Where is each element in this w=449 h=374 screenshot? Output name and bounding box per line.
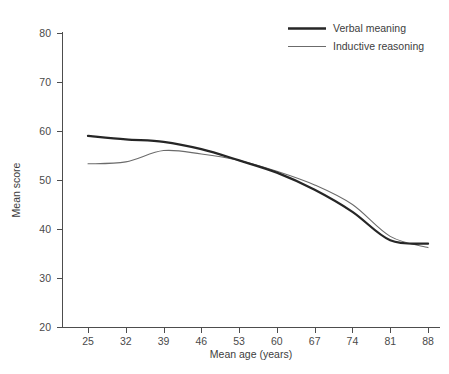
x-tick-group: 25323946536067748188: [82, 328, 434, 348]
x-tick-label: 32: [120, 335, 132, 347]
y-tick-label: 20: [39, 321, 51, 333]
legend-label-verbal-meaning: Verbal meaning: [333, 22, 406, 34]
x-tick-label: 67: [309, 335, 321, 347]
legend-label-inductive-reasoning: Inductive reasoning: [333, 40, 424, 52]
x-tick-label: 46: [195, 335, 207, 347]
legend: Verbal meaning Inductive reasoning: [288, 22, 424, 52]
x-tick-label: 53: [233, 335, 245, 347]
chart-container: 20304050607080 25323946536067748188 Mean…: [0, 0, 449, 374]
y-tick-label: 50: [39, 174, 51, 186]
y-tick-label: 80: [39, 27, 51, 39]
y-tick-group: 20304050607080: [39, 27, 62, 333]
series-group: [88, 136, 428, 248]
x-tick-label: 39: [158, 335, 170, 347]
y-tick-label: 60: [39, 125, 51, 137]
y-tick-label: 30: [39, 272, 51, 284]
x-tick-label: 60: [271, 335, 283, 347]
series-line-verbal-meaning: [88, 136, 428, 244]
y-tick-label: 70: [39, 76, 51, 88]
line-chart: 20304050607080 25323946536067748188 Mean…: [0, 0, 449, 374]
x-tick-label: 81: [384, 335, 396, 347]
x-tick-label: 25: [82, 335, 94, 347]
y-axis-title: Mean score: [10, 162, 22, 217]
y-tick-label: 40: [39, 223, 51, 235]
axis-group: [63, 32, 441, 328]
x-axis-title: Mean age (years): [210, 348, 292, 360]
x-tick-label: 88: [422, 335, 434, 347]
x-tick-label: 74: [347, 335, 359, 347]
